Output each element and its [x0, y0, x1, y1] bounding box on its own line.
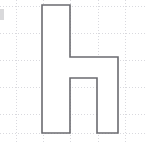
clipped-label-fragment: [0, 9, 5, 20]
figure-svg: [0, 0, 147, 142]
figure-canvas: [0, 0, 147, 142]
letter-h-polygon: [42, 5, 118, 133]
